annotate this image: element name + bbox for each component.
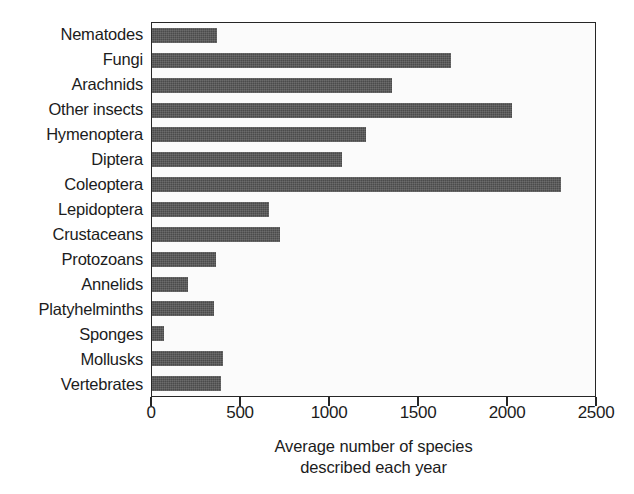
x-axis-tick-label: 0 — [146, 404, 155, 421]
bar — [152, 376, 221, 391]
bar-row — [152, 247, 595, 272]
x-axis-title-line2: described each year — [151, 457, 596, 478]
bar — [152, 351, 223, 366]
bar-series — [152, 23, 595, 396]
bar-row — [152, 172, 595, 197]
category-label: Arachnids — [0, 72, 147, 97]
category-label: Sponges — [0, 322, 147, 347]
bar-row — [152, 48, 595, 73]
bar-row — [152, 371, 595, 396]
bar — [152, 277, 188, 292]
bar-row — [152, 73, 595, 98]
bar — [152, 152, 342, 167]
category-label: Coleoptera — [0, 172, 147, 197]
x-axis-tick-label: 2500 — [578, 404, 615, 421]
bar — [152, 252, 216, 267]
category-label: Crustaceans — [0, 222, 147, 247]
x-axis-tick-label: 1500 — [400, 404, 437, 421]
x-axis-tick-label: 2000 — [489, 404, 526, 421]
bar-row — [152, 197, 595, 222]
bar-row — [152, 147, 595, 172]
category-label: Fungi — [0, 47, 147, 72]
category-label: Lepidoptera — [0, 197, 147, 222]
bar — [152, 28, 217, 43]
category-label: Platyhelminths — [0, 297, 147, 322]
bar-row — [152, 222, 595, 247]
bar — [152, 301, 214, 316]
bar — [152, 103, 512, 118]
bar-row — [152, 296, 595, 321]
plot-area — [151, 22, 596, 397]
bar — [152, 127, 366, 142]
bar — [152, 202, 269, 217]
bar-chart-figure: Nematodes Fungi Arachnids Other insects … — [0, 0, 634, 494]
category-label: Diptera — [0, 147, 147, 172]
bar — [152, 53, 451, 68]
category-label: Vertebrates — [0, 372, 147, 397]
category-label: Protozoans — [0, 247, 147, 272]
x-axis-tick-labels: 05001000150020002500 — [0, 404, 634, 428]
x-axis-title-line1: Average number of species — [151, 436, 596, 457]
category-label: Annelids — [0, 272, 147, 297]
bar — [152, 177, 561, 192]
bar-row — [152, 122, 595, 147]
bar — [152, 326, 164, 341]
x-axis-tick-label: 1000 — [311, 404, 348, 421]
bar-row — [152, 346, 595, 371]
category-label: Hymenoptera — [0, 122, 147, 147]
bar — [152, 227, 280, 242]
x-axis-title: Average number of species described each… — [151, 436, 596, 478]
category-label: Other insects — [0, 97, 147, 122]
bar-row — [152, 23, 595, 48]
category-label: Nematodes — [0, 22, 147, 47]
bar-row — [152, 272, 595, 297]
category-label: Mollusks — [0, 347, 147, 372]
category-axis-labels: Nematodes Fungi Arachnids Other insects … — [0, 22, 147, 397]
x-axis-tick-label: 500 — [226, 404, 253, 421]
bar — [152, 78, 392, 93]
bar-row — [152, 321, 595, 346]
bar-row — [152, 98, 595, 123]
